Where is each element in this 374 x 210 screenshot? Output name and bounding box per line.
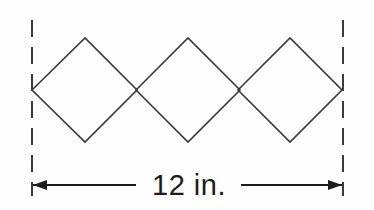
figure-canvas: 12 in. — [0, 0, 374, 210]
dimension-label: 12 in. — [152, 171, 226, 200]
